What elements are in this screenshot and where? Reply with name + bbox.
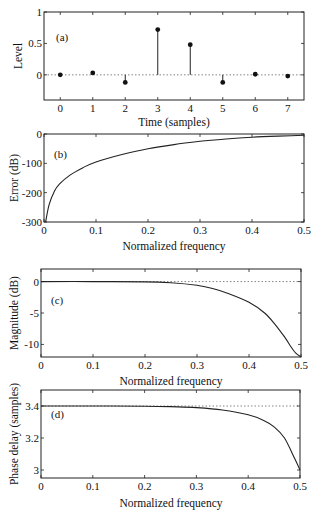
x-tick-label: 0 [38, 480, 44, 492]
y-tick-label: 0 [37, 69, 43, 81]
stem-marker [220, 80, 225, 85]
x-tick-label: 6 [253, 102, 259, 114]
y-tick-label: -5 [30, 307, 40, 319]
stem-marker [285, 74, 290, 79]
x-tick-label: 0.3 [190, 359, 204, 371]
panel-b-tag: (b) [54, 148, 67, 161]
x-tick-label: 5 [220, 102, 226, 114]
stem-marker [253, 72, 258, 77]
x-tick-label: 0.2 [138, 480, 152, 492]
x-tick-label: 0.1 [86, 480, 100, 492]
x-tick-label: 0.4 [242, 359, 256, 371]
y-tick-label: 3.4 [25, 400, 39, 412]
panel-b: 00.10.20.30.40.5 0-100-200-300 (b) Norma… [8, 128, 311, 253]
panel-a-tag: (a) [56, 31, 69, 44]
panel-b-x-label: Normalized frequency [122, 240, 225, 253]
x-tick-label: 7 [285, 102, 291, 114]
panel-a-y-ticks: 00.51 [28, 6, 304, 81]
panel-a: 01234567 00.51 (a) Time (samples) Level [12, 6, 304, 129]
panel-c-tag: (c) [51, 294, 64, 307]
panel-a-x-label: Time (samples) [138, 116, 210, 129]
x-tick-label: 0.5 [293, 480, 307, 492]
y-tick-label: 3 [34, 464, 40, 476]
panel-d-phase-delay-curve [41, 406, 300, 470]
x-tick-label: 0 [41, 224, 47, 236]
panel-b-error-curve [46, 135, 304, 222]
panel-a-stems [58, 27, 290, 85]
panel-a-x-ticks: 01234567 [58, 12, 292, 114]
y-tick-label: 0.5 [28, 37, 42, 49]
panel-d-y-label: Phase delay (samples) [8, 383, 21, 485]
y-tick-label: -100 [22, 157, 43, 169]
x-tick-label: 0.5 [297, 224, 311, 236]
x-tick-label: 0 [38, 359, 44, 371]
stem-marker [155, 27, 160, 32]
x-tick-label: 4 [188, 102, 194, 114]
x-tick-label: 0.4 [245, 224, 259, 236]
panel-d-x-label: Normalized frequency [119, 497, 222, 510]
panel-d-y-ticks: 33.23.4 [25, 400, 300, 476]
panel-b-x-ticks: 00.10.20.30.40.5 [41, 134, 311, 236]
panel-c-y-label: Magnitude (dB) [8, 276, 21, 350]
y-tick-label: -10 [24, 338, 39, 350]
panel-c-x-label: Normalized frequency [119, 375, 222, 388]
x-tick-label: 0.3 [193, 224, 207, 236]
panel-c-y-ticks: 0-5-10 [24, 276, 301, 351]
x-tick-label: 0.2 [138, 359, 152, 371]
x-tick-label: 2 [123, 102, 129, 114]
y-tick-label: -200 [22, 187, 43, 199]
panel-c: 00.10.20.30.40.5 0-5-10 (c) Normalized f… [8, 269, 308, 388]
x-tick-label: 0.1 [89, 224, 103, 236]
panel-b-frame [44, 134, 304, 222]
x-tick-label: 3 [155, 102, 161, 114]
stem-marker [90, 71, 95, 76]
y-tick-label: 1 [37, 6, 43, 18]
stem-marker [123, 80, 128, 85]
x-tick-label: 0.2 [141, 224, 155, 236]
y-tick-label: 0 [37, 128, 43, 140]
x-tick-label: 0 [58, 102, 64, 114]
panel-d: 00.10.20.30.40.5 33.23.4 (d) Normalized … [8, 383, 307, 510]
y-tick-label: 3.2 [25, 432, 39, 444]
y-tick-label: 0 [34, 276, 40, 288]
panel-c-frame [41, 269, 301, 357]
panel-b-y-ticks: 0-100-200-300 [22, 128, 304, 228]
x-tick-label: 0.1 [86, 359, 100, 371]
figure: 01234567 00.51 (a) Time (samples) Level … [0, 0, 318, 510]
panel-c-magnitude-curve [41, 282, 301, 357]
x-tick-label: 0.3 [190, 480, 204, 492]
stem-marker [58, 72, 63, 77]
panel-c-x-ticks: 00.10.20.30.40.5 [38, 269, 308, 371]
panel-d-x-ticks: 00.10.20.30.40.5 [38, 390, 307, 492]
panel-d-tag: (d) [51, 408, 64, 421]
x-tick-label: 0.4 [241, 480, 255, 492]
panel-a-y-label: Level [12, 43, 24, 69]
panel-b-y-label: Error (dB) [8, 154, 21, 202]
x-tick-label: 1 [90, 102, 96, 114]
x-tick-label: 0.5 [294, 359, 308, 371]
panel-a-frame [44, 12, 304, 100]
y-tick-label: -300 [22, 216, 43, 228]
panel-d-frame [41, 390, 300, 478]
stem-marker [188, 42, 193, 47]
